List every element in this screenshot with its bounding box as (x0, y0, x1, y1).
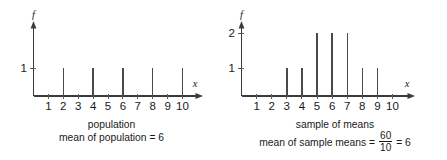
statistics-figure: f x 1 1 2 3 4 5 6 7 8 (0, 0, 447, 160)
x-tick-label: 6 (120, 100, 126, 112)
y-tick-label-1: 1 (21, 62, 27, 74)
y-axis-label: f (32, 9, 37, 20)
x-tick-label: 3 (284, 100, 290, 112)
x-axis-arrow-icon (196, 93, 204, 99)
caption-mean: mean of population = 6 (0, 131, 223, 144)
caption-mean-prefix: mean of sample means = (259, 136, 375, 149)
x-tick-label: 2 (268, 100, 274, 112)
y-tick-label-2: 2 (229, 27, 235, 39)
x-tick-label: 1 (45, 100, 51, 112)
x-tick-label: 10 (386, 100, 399, 112)
x-tick-label: 1 (253, 100, 259, 112)
x-tick-label: 7 (135, 100, 141, 112)
x-tick-label: 8 (359, 100, 365, 112)
chart-panel-sample-of-means: f x 1 2 1 2 3 4 5 6 7 (223, 0, 447, 160)
y-axis-label: f (240, 9, 245, 20)
x-axis-arrow-icon (408, 93, 416, 99)
x-tick-label: 5 (105, 100, 111, 112)
x-tick-label: 4 (299, 100, 306, 112)
x-tick-label: 7 (344, 100, 350, 112)
fraction-denominator: 10 (379, 142, 392, 153)
x-tick-label: 2 (60, 100, 66, 112)
x-axis-label: x (404, 78, 410, 89)
caption-title: sample of means (223, 118, 447, 131)
fraction-numerator: 60 (379, 131, 392, 142)
x-tick-label: 4 (90, 100, 97, 112)
x-axis-label: x (192, 78, 198, 89)
y-tick-label-1: 1 (229, 62, 235, 74)
sample-caption: sample of means mean of sample means = 6… (223, 118, 447, 153)
population-plot: f x 1 1 2 3 4 5 6 7 8 (0, 0, 223, 118)
x-tick-label: 9 (374, 100, 380, 112)
x-tick-label: 6 (329, 100, 335, 112)
x-tick-label: 10 (176, 100, 189, 112)
chart-panel-population: f x 1 1 2 3 4 5 6 7 8 (0, 0, 223, 160)
x-tick-label: 5 (314, 100, 320, 112)
sample-of-means-plot: f x 1 2 1 2 3 4 5 6 7 (223, 0, 447, 118)
x-tick-label: 3 (75, 100, 81, 112)
caption-mean: mean of sample means = 60 10 = 6 (223, 131, 447, 153)
caption-mean-suffix: = 6 (396, 136, 411, 149)
x-tick-label: 8 (149, 100, 155, 112)
mean-fraction: 60 10 (379, 131, 392, 153)
y-axis-arrow-icon (239, 21, 245, 29)
caption-title: population (0, 118, 223, 131)
population-caption: population mean of population = 6 (0, 118, 223, 144)
y-axis-arrow-icon (31, 21, 37, 29)
x-tick-label: 9 (164, 100, 170, 112)
